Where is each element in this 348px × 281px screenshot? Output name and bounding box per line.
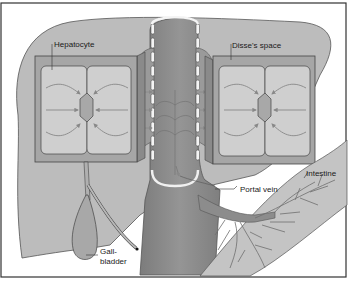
gallbladder-label-line1: Gall- xyxy=(100,247,117,256)
liver-diagram: Hepatocyte Disse's space Portal vein Int… xyxy=(0,0,348,281)
diagram-frame: Hepatocyte Disse's space Portal vein Int… xyxy=(0,0,348,281)
hepatocyte-block-left xyxy=(35,52,145,162)
intestine-label: Intestine xyxy=(306,169,337,178)
hepatocyte-label: Hepatocyte xyxy=(54,40,95,49)
portal-vein-label: Portal vein xyxy=(240,185,278,194)
gallbladder-label-line2: bladder xyxy=(100,257,127,266)
disse-space-label: Disse's space xyxy=(232,41,282,50)
hepatocyte-block-right xyxy=(205,56,315,164)
